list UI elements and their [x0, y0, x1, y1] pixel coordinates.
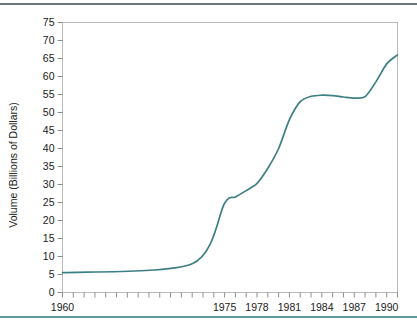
x-tick-label: 1960 — [51, 301, 75, 313]
y-axis-title: Volume (Billions of Dollars) — [7, 102, 19, 227]
data-series-volume — [63, 55, 398, 273]
x-tick-label: 1975 — [213, 301, 237, 313]
y-axis-ticks: 051015202530354045505560657075 — [43, 16, 63, 298]
bottom-divider-rule — [0, 316, 417, 318]
x-axis-tick-labels: 1960197519781981198419871990 — [51, 301, 399, 313]
x-tick-label: 1984 — [310, 301, 334, 313]
y-tick-label: 55 — [43, 88, 55, 100]
x-tick-label: 1987 — [343, 301, 367, 313]
y-tick-label: 60 — [43, 70, 55, 82]
y-tick-label: 40 — [43, 142, 55, 154]
y-tick-label: 5 — [49, 268, 55, 280]
y-tick-label: 10 — [43, 250, 55, 262]
x-tick-label: 1981 — [278, 301, 302, 313]
y-tick-label: 30 — [43, 178, 55, 190]
top-divider-rule — [0, 3, 417, 5]
y-tick-label: 25 — [43, 196, 55, 208]
y-tick-label: 70 — [43, 34, 55, 46]
y-tick-label: 0 — [49, 286, 55, 298]
chart-figure: Volume (Billions of Dollars) 05101520253… — [0, 8, 417, 313]
figure-page: Volume (Billions of Dollars) 05101520253… — [0, 0, 417, 333]
y-tick-label: 50 — [43, 106, 55, 118]
plot-frame — [63, 23, 398, 293]
y-tick-label: 35 — [43, 160, 55, 172]
x-tick-label: 1990 — [375, 301, 399, 313]
y-tick-label: 15 — [43, 232, 55, 244]
y-tick-label: 45 — [43, 124, 55, 136]
y-tick-label: 20 — [43, 214, 55, 226]
x-axis-ticks — [63, 293, 398, 298]
y-tick-label: 65 — [43, 52, 55, 64]
x-tick-label: 1978 — [245, 301, 269, 313]
y-tick-label: 75 — [43, 16, 55, 28]
line-chart: Volume (Billions of Dollars) 05101520253… — [0, 8, 417, 313]
